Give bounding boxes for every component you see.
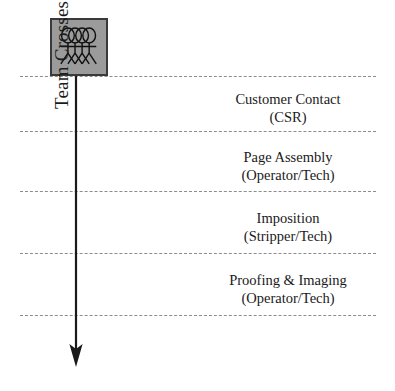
boundary-line-4: [20, 253, 376, 254]
spine-label: Team Crosses Bounderies: [50, 0, 74, 109]
stage-customer-contact: Customer Contact (CSR): [190, 90, 386, 126]
stage-role: (CSR): [190, 108, 386, 126]
stage-title: Page Assembly: [190, 148, 386, 166]
process-flow-diagram: Team Crosses Bounderies Customer Contact…: [0, 0, 395, 391]
boundary-line-2: [20, 131, 376, 132]
boundary-line-3: [20, 191, 376, 192]
stage-title: Imposition: [190, 209, 386, 227]
stage-role: (Operator/Tech): [190, 289, 386, 307]
stage-title: Customer Contact: [190, 90, 386, 108]
stage-proofing-imaging: Proofing & Imaging (Operator/Tech): [190, 271, 386, 307]
stage-title: Proofing & Imaging: [190, 271, 386, 289]
boundary-line-5: [20, 315, 376, 316]
stage-page-assembly: Page Assembly (Operator/Tech): [190, 148, 386, 184]
stage-imposition: Imposition (Stripper/Tech): [190, 209, 386, 245]
stage-role: (Stripper/Tech): [190, 227, 386, 245]
downward-flow-arrow: [64, 70, 88, 370]
stage-role: (Operator/Tech): [190, 166, 386, 184]
